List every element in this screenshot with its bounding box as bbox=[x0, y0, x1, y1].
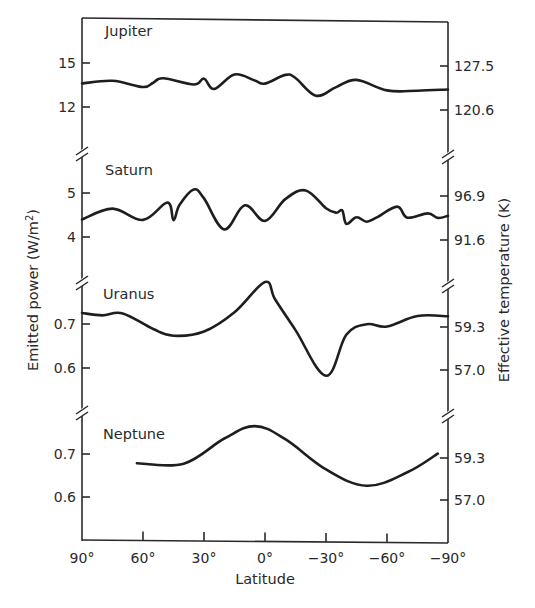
x-tick-label: 60° bbox=[131, 550, 156, 566]
right-tick-label: 127.5 bbox=[454, 58, 494, 74]
x-tick-label: 30° bbox=[192, 550, 217, 566]
panel-label-uranus: Uranus bbox=[103, 286, 154, 302]
left-axis-title-text: Emitted power (W/m bbox=[25, 221, 41, 371]
curve-jupiter bbox=[82, 74, 448, 96]
right-axis-title: Effective temperature (K) bbox=[496, 198, 512, 382]
left-tick-label: 0.6 bbox=[54, 489, 76, 505]
x-tick-label: 90° bbox=[70, 550, 95, 566]
left-axis-title-close: ) bbox=[25, 209, 41, 215]
left-tick-label: 0.6 bbox=[54, 360, 76, 376]
left-axis-title: Emitted power (W/m2) bbox=[24, 209, 41, 371]
panel-label-saturn: Saturn bbox=[105, 162, 153, 178]
data-curves bbox=[82, 74, 448, 486]
left-tick-label: 0.7 bbox=[54, 446, 76, 462]
panel-label-neptune: Neptune bbox=[103, 426, 165, 442]
left-tick-label: 5 bbox=[67, 185, 76, 201]
tick-marks bbox=[82, 63, 448, 543]
axis-break-marks bbox=[76, 147, 454, 423]
x-tick-label: 0° bbox=[257, 550, 273, 566]
x-tick-label: −30° bbox=[308, 550, 345, 566]
right-tick-label: 120.6 bbox=[454, 102, 494, 118]
left-tick-label: 4 bbox=[67, 229, 76, 245]
right-tick-label: 59.3 bbox=[454, 319, 485, 335]
x-axis-title: Latitude bbox=[235, 571, 295, 587]
left-tick-label: 12 bbox=[58, 99, 76, 115]
right-tick-label: 59.3 bbox=[454, 450, 485, 466]
top-border bbox=[82, 18, 448, 22]
left-tick-label: 0.7 bbox=[54, 316, 76, 332]
right-tick-label: 96.9 bbox=[454, 188, 485, 204]
curve-saturn bbox=[82, 189, 448, 229]
right-tick-label: 57.0 bbox=[454, 492, 485, 508]
right-tick-label: 57.0 bbox=[454, 362, 485, 378]
x-tick-label: −60° bbox=[369, 550, 406, 566]
panel-label-jupiter: Jupiter bbox=[104, 23, 152, 39]
planet-emission-chart: 90°60°30°0°−30°−60°−90°1512127.5120.6Jup… bbox=[0, 0, 535, 608]
right-tick-label: 91.6 bbox=[454, 232, 485, 248]
left-tick-label: 15 bbox=[58, 55, 76, 71]
curve-neptune bbox=[137, 426, 438, 486]
x-tick-label: −90° bbox=[430, 550, 467, 566]
